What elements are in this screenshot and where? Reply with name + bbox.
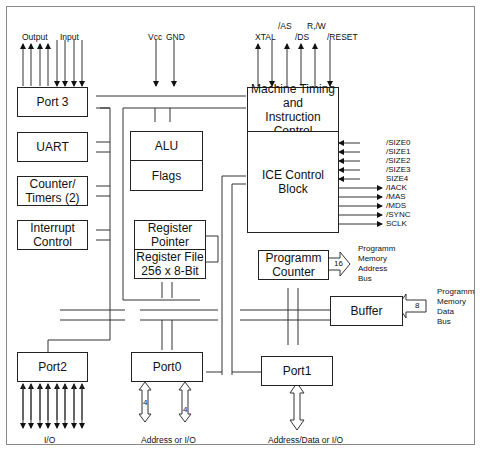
port2-block: Port2 [17, 352, 88, 382]
rw-label: R,/W [307, 21, 326, 31]
port0-bus-a-width: 4 [143, 398, 147, 407]
pm-address-bus-label: Programm Memory Address Bus [358, 244, 395, 284]
vcc-label: Vcc [148, 32, 162, 42]
buffer-block: Buffer [330, 296, 403, 326]
uart-block: UART [17, 132, 88, 162]
pm-data-width: 8 [415, 301, 419, 310]
output-label: Output [22, 32, 48, 42]
program-counter-block: Programm Counter [258, 250, 329, 280]
pm-data-bus-label: Programm Memory Data Bus [437, 287, 474, 327]
ice-control-block: ICE Control Block [247, 131, 339, 233]
port2-io-label: I/O [44, 435, 55, 445]
register-pointer-block: Register Pointer [134, 220, 206, 250]
port0-block: Port0 [131, 352, 203, 382]
counter-timers-block: Counter/ Timers (2) [17, 176, 88, 206]
pm-address-width: 16 [334, 259, 343, 268]
register-file-block: Register File 256 x 8-Bit [134, 249, 206, 279]
port3-block: Port 3 [17, 87, 88, 117]
flags-block: Flags [130, 160, 203, 191]
alu-block: ALU [130, 131, 203, 161]
port1-block: Port1 [261, 356, 333, 386]
as-label: /AS [278, 21, 292, 31]
interrupt-control-block: Interrupt Control [17, 220, 88, 250]
machine-timing-block: Machine Timing and Instruction Control [247, 87, 339, 132]
input-label: Input [60, 32, 79, 42]
ice-signal-out-4: SCLK [386, 218, 407, 230]
port0-bus-b-width: 4 [183, 405, 187, 414]
port1-io-label: Address/Data or I/O [268, 435, 343, 445]
port0-io-label: Address or I/O [141, 435, 196, 445]
xtal-label: XTAL [255, 32, 276, 42]
gnd-label: GND [166, 32, 185, 42]
reset-label: /RESET [327, 32, 358, 42]
ds-label: /DS [295, 32, 309, 42]
